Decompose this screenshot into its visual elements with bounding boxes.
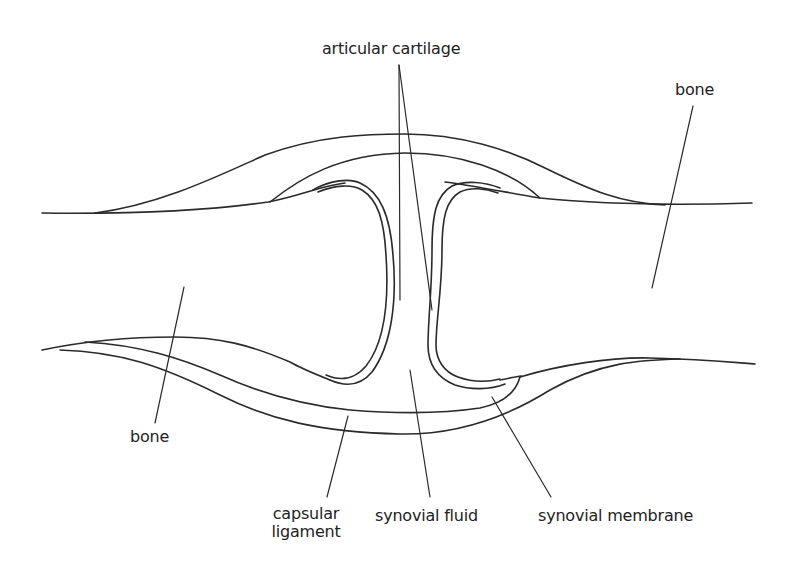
leader-bone-left bbox=[155, 287, 184, 423]
cartilage-upper-left-inner bbox=[318, 186, 387, 378]
label-bone-left: bone bbox=[130, 428, 169, 446]
leader-articular-cartilage-1 bbox=[399, 65, 400, 300]
lower-bone-outline-left bbox=[42, 337, 330, 380]
leader-bone-right bbox=[652, 106, 693, 288]
label-synovial-fluid: synovial fluid bbox=[375, 507, 478, 525]
cartilage-upper-right-outer bbox=[428, 182, 505, 388]
label-synovial-membrane: synovial membrane bbox=[538, 507, 693, 525]
label-capsular-ligament-line2: ligament bbox=[266, 523, 346, 541]
label-articular-cartilage: articular cartilage bbox=[322, 40, 460, 58]
leader-articular-cartilage-2 bbox=[399, 65, 432, 310]
leader-synovial-membrane bbox=[492, 397, 551, 497]
label-capsular-ligament: capsular ligament bbox=[266, 505, 346, 541]
synovial-joint-diagram bbox=[0, 0, 789, 573]
lower-bone-outline-right bbox=[500, 358, 755, 380]
capsular-ligament-lower-inner bbox=[85, 342, 520, 413]
cartilage-upper-left-outer bbox=[313, 180, 394, 384]
upper-bone-outline bbox=[42, 183, 345, 213]
label-capsular-ligament-line1: capsular bbox=[266, 505, 346, 523]
capsular-ligament-upper-inner bbox=[270, 153, 540, 202]
label-bone-right: bone bbox=[675, 81, 714, 99]
cartilage-upper-right-inner bbox=[436, 189, 500, 381]
